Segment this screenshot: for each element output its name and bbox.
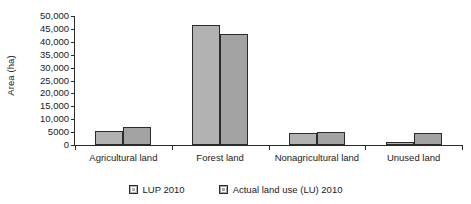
legend-entry-2[interactable]: Actual land use (LU) 2010: [219, 184, 343, 195]
x-axis-label-agricultural-land: Agricultural land: [75, 152, 172, 164]
x-axis-label-nonagricultural-land: Nonagricultural land: [269, 152, 366, 164]
x-axis-label-unused-land: Unused land: [365, 152, 462, 164]
bar-unused-land-series-2: [414, 133, 442, 145]
y-axis-tick-label: 35,000: [40, 49, 69, 60]
y-axis-tick-label: 45,000: [40, 23, 69, 34]
y-axis-tick-label: 25,000: [40, 75, 69, 86]
x-axis-label-forest-land: Forest land: [172, 152, 269, 164]
y-axis-tick-label: 10,000: [40, 113, 69, 124]
y-axis-tick-label: 15,000: [40, 100, 69, 111]
y-axis-tick-label: 5000: [48, 126, 69, 137]
y-axis-tick-label: 30,000: [40, 62, 69, 73]
legend-label: Actual land use (LU) 2010: [233, 184, 343, 195]
bar-forest-land-series-1: [192, 25, 220, 145]
y-axis-tick-label: 40,000: [40, 36, 69, 47]
bar-forest-land-series-2: [220, 34, 248, 145]
plot-area: [75, 16, 462, 145]
y-axis-tick-label: 0: [64, 139, 69, 150]
x-axis-tick-mark: [172, 145, 173, 150]
bar-agricultural-land-series-2: [123, 127, 151, 145]
chart-figure: Area (ha) 0500010,00015,00020,00025,0003…: [0, 0, 471, 204]
y-axis-tick-label: 20,000: [40, 87, 69, 98]
bar-agricultural-land-series-1: [95, 131, 123, 145]
x-axis-tick-mark: [269, 145, 270, 150]
x-axis-tick-mark: [75, 145, 76, 150]
y-axis-ticks: 0500010,00015,00020,00025,00030,00035,00…: [0, 0, 75, 204]
legend-swatch-icon: [129, 185, 138, 194]
x-axis-tick-mark: [365, 145, 366, 150]
bar-nonagricultural-land-series-2: [317, 132, 345, 145]
legend-swatch-icon: [219, 185, 228, 194]
bar-nonagricultural-land-series-1: [289, 133, 317, 145]
legend-label: LUP 2010: [143, 184, 185, 195]
legend-entry-1[interactable]: LUP 2010: [129, 184, 185, 195]
chart-legend: LUP 2010Actual land use (LU) 2010: [0, 181, 471, 197]
x-axis-tick-mark: [462, 145, 463, 150]
y-axis-tick-label: 50,000: [40, 10, 69, 21]
bar-unused-land-series-1: [386, 142, 414, 145]
